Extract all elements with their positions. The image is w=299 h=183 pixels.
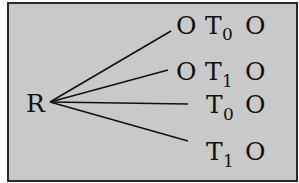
branch-line-1 — [50, 31, 171, 102]
branch-line-4 — [50, 102, 188, 141]
branch-line-2 — [50, 70, 168, 102]
branch-3-suffix: O — [245, 90, 266, 119]
branch-3-main: T — [206, 90, 223, 119]
tree-diagram: R O T 0 O O T 1 O T 0 O T 1 O — [0, 0, 299, 183]
branch-1-prefix: O — [176, 11, 197, 40]
branch-2-prefix: O — [176, 57, 197, 86]
branch-1-subscript: 0 — [222, 24, 233, 44]
branch-3-subscript: 0 — [223, 104, 234, 124]
branch-4-subscript: 1 — [223, 151, 234, 171]
branch-4-suffix: O — [245, 137, 266, 166]
root-label: R — [26, 89, 46, 118]
branch-line-3 — [50, 102, 188, 104]
branch-2-suffix: O — [245, 57, 266, 86]
branch-4-main: T — [206, 137, 223, 166]
branch-1-main: T — [205, 11, 222, 40]
branch-2-subscript: 1 — [222, 71, 233, 91]
branch-1-suffix: O — [245, 11, 266, 40]
branch-2-main: T — [205, 57, 222, 86]
branch-lines — [50, 31, 188, 141]
